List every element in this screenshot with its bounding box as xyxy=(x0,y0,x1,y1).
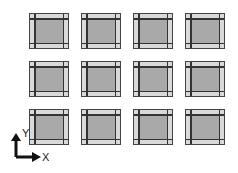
x-axis-label: X xyxy=(42,151,49,163)
axis-icon xyxy=(0,0,238,173)
y-axis-label: Y xyxy=(22,127,29,139)
